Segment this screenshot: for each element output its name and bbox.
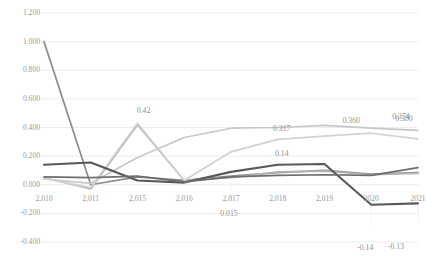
y-axis-tick-label: 0.800 xyxy=(4,66,40,74)
y-axis-tick-label: 1.200 xyxy=(4,9,40,17)
y-axis-tick-label: 0.400 xyxy=(4,124,40,132)
y-axis-tick-label: -0.200 xyxy=(4,209,40,217)
y-axis-tick-label: -0.400 xyxy=(4,238,40,246)
y-axis-tick-label: 0.000 xyxy=(4,181,40,189)
y-axis-tick-label: 1.000 xyxy=(4,38,40,46)
series-lines xyxy=(44,42,418,205)
series-line-series-1 xyxy=(44,42,418,185)
y-axis-tick-label: 0.600 xyxy=(4,95,40,103)
y-axis: 1.2001.0000.8000.6000.4000.2000.000-0.20… xyxy=(0,0,40,259)
y-axis-tick-label: 0.200 xyxy=(4,152,40,160)
